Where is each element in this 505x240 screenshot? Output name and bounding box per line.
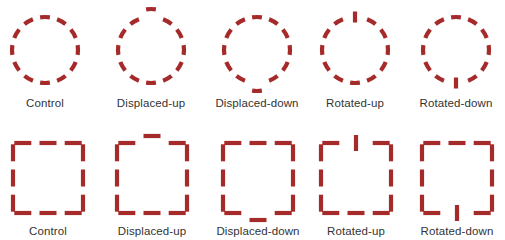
dash-segment [177,29,182,37]
dash-segment [163,76,171,81]
dash-segment [425,29,430,37]
label-circle-rotated-up: Rotated-up [300,97,410,109]
dash-segment [283,62,288,70]
dash-segment [381,62,386,70]
dash-segment [435,76,443,81]
dash-segment [24,76,32,81]
square-shape-control [13,143,83,213]
label-circle-control: Control [0,97,100,109]
figure-canvas: Control Displaced-up Displaced-down Rota… [0,0,505,240]
circle-shape-rotated-up [322,12,388,84]
circle-shape-displaced-down [224,17,290,91]
dash-segment [324,29,329,37]
dash-segment [120,62,125,70]
dash-segment [468,19,476,24]
dash-segment [130,19,138,24]
dash-segment [367,19,375,24]
shapes-layer [0,0,505,240]
dash-segment [71,29,76,37]
circle-shape-displaced-up [118,9,184,83]
dash-segment [381,29,386,37]
dash-segment [71,62,76,70]
label-square-rotated-down: Rotated-down [402,225,505,237]
dash-segment [367,76,375,81]
dash-segment [435,19,443,24]
label-square-control: Control [0,225,103,237]
label-square-displaced-up: Displaced-up [97,225,207,237]
dash-segment [120,29,125,37]
label-square-displaced-down: Displaced-down [203,225,313,237]
dash-segment [24,19,32,24]
dash-segment [482,62,487,70]
dash-segment [177,62,182,70]
dash-segment [269,76,277,81]
square-shape-displaced-down [223,143,293,220]
dash-segment [14,29,19,37]
dash-segment [57,19,65,24]
circle-shape-rotated-down [423,17,489,89]
dash-segment [226,62,231,70]
dash-segment [14,62,19,70]
dash-segment [425,62,430,70]
label-circle-displaced-down: Displaced-down [202,97,312,109]
dash-segment [468,76,476,81]
square-shape-rotated-up [321,135,391,213]
square-shape-rotated-down [422,143,492,221]
dash-segment [482,29,487,37]
dash-segment [130,76,138,81]
label-circle-displaced-up: Displaced-up [96,97,206,109]
dash-segment [324,62,329,70]
dash-segment [236,76,244,81]
dash-segment [334,76,342,81]
dash-segment [163,19,171,24]
dash-segment [226,29,231,37]
dash-segment [334,19,342,24]
dash-segment [269,19,277,24]
dash-segment [283,29,288,37]
square-shape-displaced-up [117,136,187,213]
dash-segment [236,19,244,24]
circle-shape-control [12,17,78,83]
dash-segment [57,76,65,81]
label-square-rotated-up: Rotated-up [301,225,411,237]
label-circle-rotated-down: Rotated-down [401,97,505,109]
